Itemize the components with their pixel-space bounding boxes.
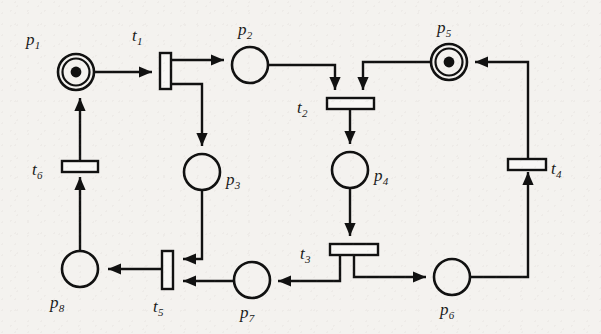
arc-p2-t2-line xyxy=(268,65,335,90)
place-p1-token-dot-icon xyxy=(71,67,82,78)
arc-t6-p1-arrowhead-icon xyxy=(74,98,85,111)
arc-t1-p2-arrowhead-icon xyxy=(211,54,224,65)
arc-p8-t6-arrowhead-icon xyxy=(74,177,85,190)
transition-t3-bar[interactable] xyxy=(330,244,378,255)
arc-t3-p6 xyxy=(354,255,426,283)
arc-t3-p7-arrowhead-icon xyxy=(278,275,291,286)
place-p2-label-subscript: 2 xyxy=(247,29,253,41)
transition-t4-bar[interactable] xyxy=(508,159,546,170)
arc-p4-t3 xyxy=(344,188,355,236)
place-p3-label-base: p xyxy=(226,170,235,189)
transition-t6-label: t6 xyxy=(32,160,43,181)
arc-t3-p6-arrowhead-icon xyxy=(413,271,426,282)
place-p1-label: p1 xyxy=(26,30,40,51)
arc-p5-t2 xyxy=(357,62,431,90)
arc-p3-t5-line xyxy=(183,190,202,259)
place-p4[interactable] xyxy=(332,152,368,188)
arc-t6-p1 xyxy=(74,98,85,161)
transition-t1[interactable] xyxy=(160,53,171,89)
arc-t4-p5-line xyxy=(475,62,528,159)
place-p1-label-base: p xyxy=(26,30,35,49)
place-p5[interactable] xyxy=(431,44,467,80)
place-p8-circle[interactable] xyxy=(62,251,98,287)
place-p1[interactable] xyxy=(58,54,94,90)
arc-p2-t2 xyxy=(268,65,341,90)
place-p8-label-base: p xyxy=(50,293,59,312)
petri-net-figure: p1p2p3p4p5p6p7p8t1t2t3t4t5t6 xyxy=(0,0,601,334)
arc-t1-p2 xyxy=(171,54,224,65)
place-p7-label-base: p xyxy=(240,303,249,322)
transition-t4-label-subscript: 4 xyxy=(556,168,562,180)
place-p6-label-base: p xyxy=(440,300,449,319)
arc-t4-p5-arrowhead-icon xyxy=(475,56,488,67)
transition-t2-label-subscript: 2 xyxy=(302,107,308,119)
arc-t1-p3 xyxy=(171,84,208,146)
place-p7[interactable] xyxy=(234,262,270,298)
transition-t6-label-subscript: 6 xyxy=(37,169,43,181)
place-p4-label-base: p xyxy=(374,166,383,185)
transition-t1-label: t1 xyxy=(132,26,143,47)
transition-t1-bar[interactable] xyxy=(160,53,171,89)
place-p6-label-subscript: 6 xyxy=(449,309,455,321)
transition-t4[interactable] xyxy=(508,159,546,170)
arc-p2-t2-arrowhead-icon xyxy=(329,77,340,90)
place-p2-label-base: p xyxy=(238,20,247,39)
place-p1-label-subscript: 1 xyxy=(35,39,41,51)
arc-p6-t4-arrowhead-icon xyxy=(522,172,533,185)
place-p5-label-subscript: 5 xyxy=(446,27,452,39)
transition-t2[interactable] xyxy=(327,98,374,109)
arc-p4-t3-arrowhead-icon xyxy=(344,223,355,236)
transition-t2-bar[interactable] xyxy=(327,98,374,109)
arc-t1-p3-line xyxy=(171,84,202,146)
transition-t2-label: t2 xyxy=(297,98,308,119)
place-p6-label: p6 xyxy=(440,300,454,321)
place-p8[interactable] xyxy=(62,251,98,287)
place-p4-circle[interactable] xyxy=(332,152,368,188)
arc-t5-p8-arrowhead-icon xyxy=(108,263,121,274)
transition-t1-label-subscript: 1 xyxy=(137,35,143,47)
place-p3-circle[interactable] xyxy=(184,154,220,190)
transition-t5-bar[interactable] xyxy=(162,251,173,289)
petri-net-canvas xyxy=(0,0,601,334)
arc-t5-p8 xyxy=(108,263,162,274)
transition-t6-bar[interactable] xyxy=(62,161,98,172)
place-p3[interactable] xyxy=(184,154,220,190)
place-p7-label: p7 xyxy=(240,303,254,324)
transition-t3[interactable] xyxy=(330,244,378,255)
arc-t2-p4-arrowhead-icon xyxy=(344,131,355,144)
place-p6[interactable] xyxy=(434,259,470,295)
arc-p3-t5 xyxy=(183,190,202,265)
transition-t5-label: t5 xyxy=(153,297,164,318)
arc-p8-t6 xyxy=(74,177,85,251)
place-p4-label: p4 xyxy=(374,166,388,187)
transition-t3-label: t3 xyxy=(300,244,311,265)
arc-p5-t2-line xyxy=(363,62,431,90)
arc-t1-p3-arrowhead-icon xyxy=(196,133,207,146)
transition-t6[interactable] xyxy=(62,161,98,172)
arc-p5-t2-arrowhead-icon xyxy=(357,77,368,90)
place-p2-circle[interactable] xyxy=(232,47,268,83)
transition-t3-label-subscript: 3 xyxy=(305,253,311,265)
place-p5-token-dot-icon xyxy=(444,57,455,68)
arc-t4-p5 xyxy=(475,56,528,159)
arc-t2-p4 xyxy=(344,109,355,144)
transition-t5-label-subscript: 5 xyxy=(158,306,164,318)
place-p3-label: p3 xyxy=(226,170,240,191)
place-p6-circle[interactable] xyxy=(434,259,470,295)
place-p2[interactable] xyxy=(232,47,268,83)
arc-p1-t1-arrowhead-icon xyxy=(139,66,152,77)
place-p5-label-base: p xyxy=(437,18,446,37)
place-p7-label-subscript: 7 xyxy=(249,312,255,324)
arc-p6-t4 xyxy=(470,172,534,277)
arc-p3-t5-arrowhead-icon xyxy=(183,253,196,264)
place-p4-label-subscript: 4 xyxy=(383,175,389,187)
place-p3-label-subscript: 3 xyxy=(235,179,241,191)
arc-p7-t5-arrowhead-icon xyxy=(183,275,196,286)
transition-t5[interactable] xyxy=(162,251,173,289)
place-p8-label: p8 xyxy=(50,293,64,314)
place-p8-label-subscript: 8 xyxy=(59,302,65,314)
place-p7-circle[interactable] xyxy=(234,262,270,298)
transition-t4-label: t4 xyxy=(551,159,562,180)
arc-p7-t5 xyxy=(183,275,234,286)
place-p5-label: p5 xyxy=(437,18,451,39)
